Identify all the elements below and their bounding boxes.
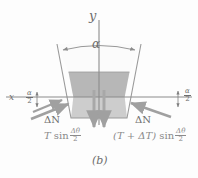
figure-caption: (b) [92, 155, 108, 166]
tension-formula-right: (T + ΔT) sinΔθ2 [113, 128, 186, 143]
tension-right-factor: (T + ΔT) [113, 130, 156, 141]
half-angle-label-right: α 2 [184, 88, 191, 103]
x-axis-label: x [9, 93, 14, 102]
tension-right-function: sin [159, 130, 174, 141]
y-axis-label: y [89, 9, 96, 22]
normal-force-label-left: ΔN [44, 115, 60, 125]
tension-formula-left: T sinΔθ2 [44, 128, 81, 143]
tension-left-arg-denominator: 2 [70, 136, 81, 143]
tension-left-function: sin [54, 130, 69, 141]
tension-right-arg-denominator: 2 [175, 136, 186, 143]
tension-left-factor: T [44, 130, 51, 141]
normal-force-label-right: ΔN [135, 115, 151, 125]
half-angle-label-left: α 2 [26, 90, 33, 105]
half-angle-denominator-left: 2 [26, 98, 33, 105]
half-angle-denominator-right: 2 [184, 96, 191, 103]
tension-right-fraction: Δθ2 [175, 128, 186, 143]
figure-wedge-force-diagram: y x α α 2 α 2 ΔN ΔN T sinΔθ2 (T + ΔT) si… [0, 0, 198, 178]
tension-left-fraction: Δθ2 [70, 128, 81, 143]
apex-angle-label: α [92, 38, 100, 50]
